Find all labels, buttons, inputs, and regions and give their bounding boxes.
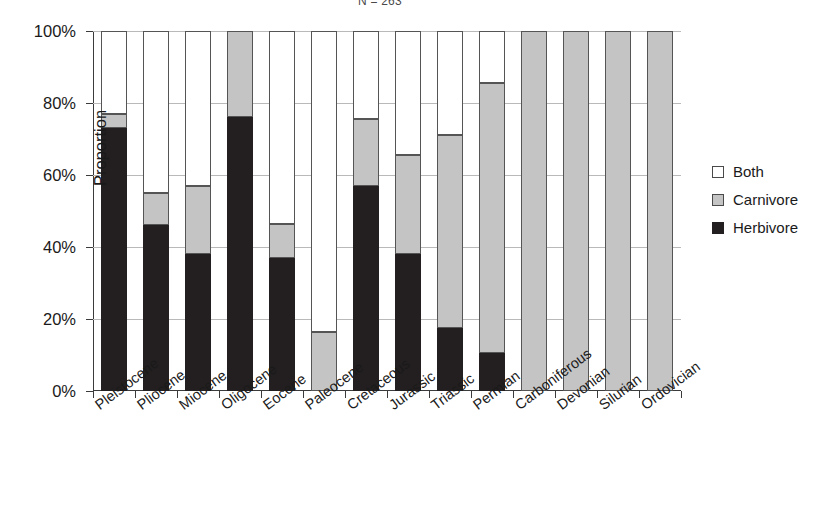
- legend-label: Herbivore: [733, 220, 798, 235]
- bar-slot: [513, 31, 555, 391]
- bar-segment-herbivore[interactable]: [227, 117, 253, 391]
- bar-segment-carnivore[interactable]: [269, 224, 295, 258]
- bar-slot: [345, 31, 387, 391]
- bar-slot: [93, 31, 135, 391]
- bar-segment-both[interactable]: [353, 31, 379, 119]
- bar-segment-both[interactable]: [143, 31, 169, 193]
- bar-slot: [177, 31, 219, 391]
- bar-segment-carnivore[interactable]: [437, 135, 463, 328]
- bar-segment-both[interactable]: [185, 31, 211, 186]
- bar-segment-carnivore[interactable]: [479, 83, 505, 353]
- bar-segment-carnivore[interactable]: [185, 186, 211, 254]
- legend-label: Both: [733, 164, 764, 179]
- bar-slot: [639, 31, 681, 391]
- stacked-bar[interactable]: [563, 31, 589, 391]
- stacked-bar[interactable]: [185, 31, 211, 391]
- y-axis-title: Proportion: [91, 110, 110, 186]
- bar-group: [93, 31, 681, 391]
- bar-segment-carnivore[interactable]: [143, 193, 169, 225]
- white-square-icon: [712, 166, 724, 178]
- bar-segment-carnivore[interactable]: [563, 31, 589, 391]
- bar-segment-both[interactable]: [311, 31, 337, 332]
- chart-legend: BothCarnivoreHerbivore: [712, 164, 798, 248]
- legend-label: Carnivore: [733, 192, 798, 207]
- y-axis-tick-label: 20%: [43, 310, 76, 329]
- chart-title: N = 263: [0, 0, 760, 8]
- stacked-bar[interactable]: [353, 31, 379, 391]
- bar-segment-both[interactable]: [269, 31, 295, 224]
- stacked-bar[interactable]: [311, 31, 337, 391]
- bar-segment-both[interactable]: [437, 31, 463, 135]
- bar-slot: [303, 31, 345, 391]
- bar-segment-carnivore[interactable]: [647, 31, 673, 391]
- bar-slot: [219, 31, 261, 391]
- y-axis-tick-label: 0%: [52, 382, 76, 401]
- stacked-bar[interactable]: [143, 31, 169, 391]
- bar-slot: [471, 31, 513, 391]
- y-axis-tick: 100%: [86, 31, 93, 32]
- legend-item-carnivore[interactable]: Carnivore: [712, 192, 798, 207]
- bar-slot: [261, 31, 303, 391]
- bar-segment-carnivore[interactable]: [227, 31, 253, 117]
- bar-segment-both[interactable]: [101, 31, 127, 114]
- bar-segment-carnivore[interactable]: [521, 31, 547, 391]
- bar-segment-both[interactable]: [479, 31, 505, 83]
- stacked-bar[interactable]: [395, 31, 421, 391]
- y-axis-tick-label: 60%: [43, 166, 76, 185]
- chart-figure: N = 263 0%20%40%60%80%100% Proportion Pl…: [0, 0, 823, 508]
- y-axis-tick-label: 80%: [43, 94, 76, 113]
- plot-area: 0%20%40%60%80%100% Proportion: [93, 31, 681, 391]
- bar-slot: [555, 31, 597, 391]
- bar-slot: [429, 31, 471, 391]
- legend-item-herbivore[interactable]: Herbivore: [712, 220, 798, 235]
- y-axis-tick: 40%: [86, 247, 93, 248]
- y-axis-tick-label: 100%: [34, 22, 76, 41]
- stacked-bar[interactable]: [521, 31, 547, 391]
- gray-square-icon: [712, 194, 724, 206]
- stacked-bar[interactable]: [101, 31, 127, 391]
- x-axis-tick: [681, 391, 682, 398]
- stacked-bar[interactable]: [269, 31, 295, 391]
- bar-segment-herbivore[interactable]: [185, 254, 211, 391]
- stacked-bar[interactable]: [437, 31, 463, 391]
- bar-segment-both[interactable]: [395, 31, 421, 155]
- stacked-bar[interactable]: [227, 31, 253, 391]
- y-axis-tick-label: 40%: [43, 238, 76, 257]
- stacked-bar[interactable]: [479, 31, 505, 391]
- y-axis-tick: 20%: [86, 319, 93, 320]
- bar-segment-carnivore[interactable]: [605, 31, 631, 391]
- bar-segment-carnivore[interactable]: [395, 155, 421, 254]
- black-square-icon: [712, 222, 724, 234]
- bar-slot: [387, 31, 429, 391]
- bar-segment-carnivore[interactable]: [353, 119, 379, 186]
- stacked-bar[interactable]: [605, 31, 631, 391]
- y-axis-tick: 0%: [86, 391, 93, 392]
- bar-slot: [597, 31, 639, 391]
- legend-item-both[interactable]: Both: [712, 164, 798, 179]
- stacked-bar[interactable]: [647, 31, 673, 391]
- y-axis-tick: 80%: [86, 103, 93, 104]
- bar-slot: [135, 31, 177, 391]
